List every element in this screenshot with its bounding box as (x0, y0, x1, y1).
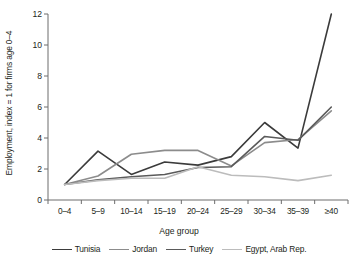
y-tick-label: 8 (24, 72, 42, 81)
legend-swatch-egypt-arab-rep (222, 249, 242, 250)
y-tick-label: 6 (24, 103, 42, 112)
x-axis-title-text: Age group (159, 226, 199, 236)
y-tick-label: 2 (24, 165, 42, 174)
chart-legend: TunisiaJordanTurkeyEgypt, Arab Rep. (0, 244, 358, 254)
y-tick-label: 12 (24, 10, 42, 19)
series-line-egypt-arab-rep (65, 167, 332, 185)
legend-label-turkey: Turkey (189, 244, 213, 254)
x-axis-title: Age group (0, 226, 358, 236)
y-tick-label: 4 (24, 134, 42, 143)
legend-item-tunisia[interactable]: Tunisia (52, 244, 101, 254)
y-tick-label: 0 (24, 196, 42, 205)
legend-item-turkey[interactable]: Turkey (166, 244, 213, 254)
legend-swatch-turkey (166, 249, 186, 250)
data-series-group (65, 14, 332, 185)
legend-swatch-tunisia (52, 249, 72, 250)
x-tick-label: ≥40 (311, 207, 351, 216)
series-line-jordan (65, 111, 332, 185)
x-axis-ticks (48, 200, 348, 204)
legend-label-tunisia: Tunisia (75, 244, 101, 254)
y-axis-ticks (44, 14, 48, 200)
legend-label-jordan: Jordan (132, 244, 157, 254)
legend-item-egypt-arab-rep[interactable]: Egypt, Arab Rep. (222, 244, 306, 254)
y-tick-label: 10 (24, 41, 42, 50)
chart-container: Employment, index = 1 for firms age 0–4 … (0, 0, 358, 269)
legend-label-egypt-arab-rep: Egypt, Arab Rep. (245, 244, 306, 254)
legend-item-jordan[interactable]: Jordan (109, 244, 157, 254)
series-line-tunisia (65, 14, 332, 185)
legend-swatch-jordan (109, 249, 129, 250)
series-line-turkey (65, 107, 332, 185)
